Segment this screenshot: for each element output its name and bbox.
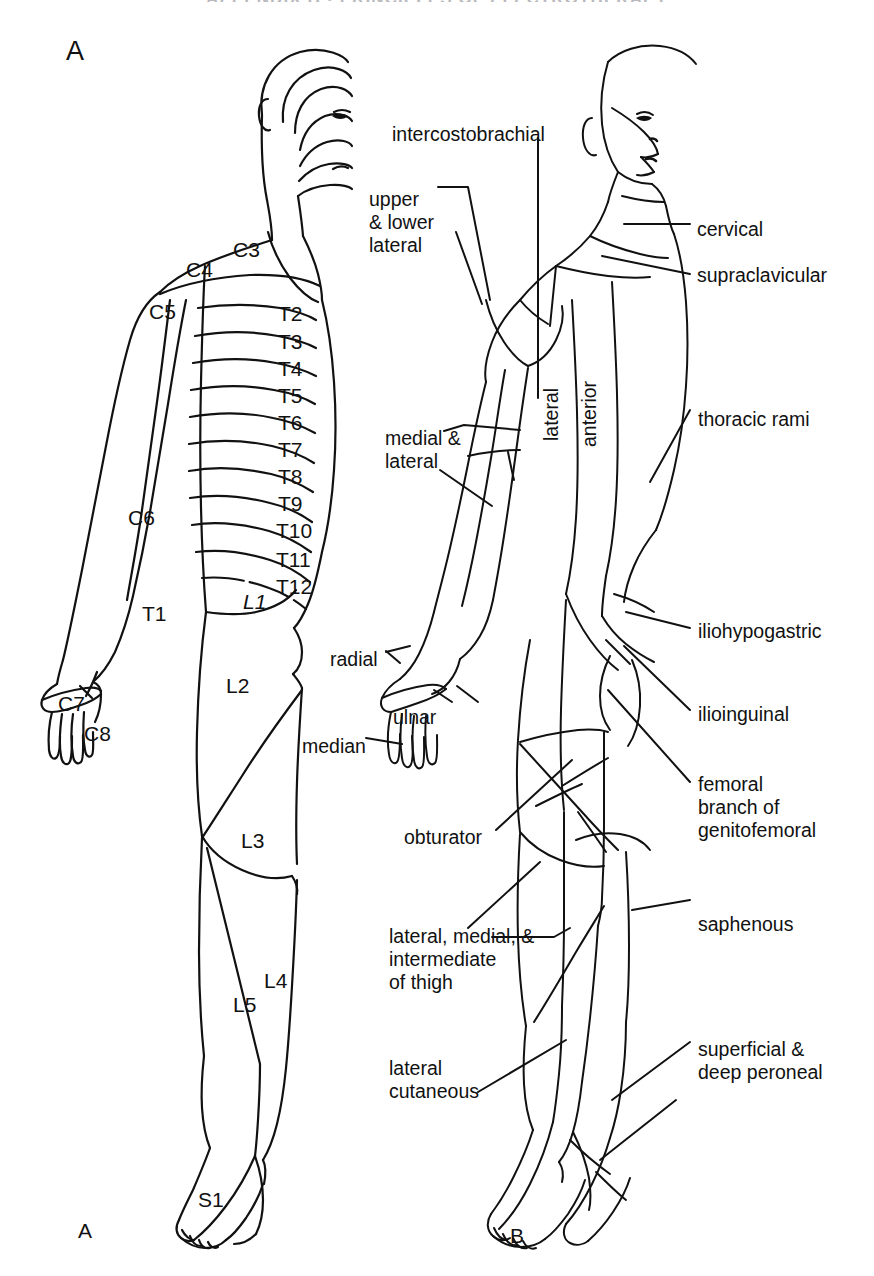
nerve-label-lateral-cutaneous: lateral cutaneous (389, 1057, 479, 1103)
dermatome-label-c4: C4 (186, 258, 213, 281)
nerve-label-medial-lateral: medial & lateral (385, 427, 461, 473)
dermatome-label-t11: T11 (276, 548, 311, 571)
dermatome-label-l1: L1 (243, 590, 266, 613)
dermatome-label-l2: L2 (226, 674, 249, 697)
dermatome-label-t6: T6 (278, 411, 303, 434)
dermatome-label-l4: L4 (264, 969, 287, 992)
dermatome-label-t5: T5 (278, 384, 303, 407)
dermatome-label-t3: T3 (278, 330, 303, 353)
nerve-label-ilioinguinal: ilioinguinal (698, 703, 789, 726)
dermatome-label-t9: T9 (278, 492, 303, 515)
dermatome-label-t10: T10 (276, 519, 312, 542)
nerve-label-median: median (302, 735, 366, 758)
nerve-label-radial: radial (330, 648, 378, 671)
nerve-label-thoracic-rami: thoracic rami (698, 408, 810, 431)
dermatome-label-c6: C6 (128, 506, 155, 529)
dermatome-label-t2: T2 (278, 302, 303, 325)
nerve-label-anterior: anterior (578, 381, 601, 447)
nerve-label-supraclavicular: supraclavicular (697, 264, 827, 287)
nerve-label-obturator: obturator (404, 826, 482, 849)
nerve-label-intercostobrachial: intercostobrachial (392, 123, 545, 146)
dermatome-label-t8: T8 (278, 465, 303, 488)
dermatome-label-c7: C7 (58, 692, 85, 715)
dermatome-label-c3: C3 (233, 238, 260, 261)
dermatome-label-t7: T7 (278, 438, 303, 461)
figure-a-body (41, 50, 352, 1248)
nerve-label-iliohypogastric: iliohypogastric (698, 620, 822, 643)
dermatome-label-l5: L5 (233, 993, 256, 1016)
nerve-label-lateral-medial-intermediate-of-thigh: lateral, medial, & intermediate of thigh (389, 925, 534, 994)
nerve-label-ulnar: ulnar (393, 706, 436, 729)
nerve-label-lateral: lateral (540, 388, 563, 441)
dermatome-label-c5: C5 (149, 300, 176, 323)
dermatome-label-l3: L3 (241, 829, 264, 852)
dermatome-label-t12: T12 (276, 575, 312, 598)
dermatome-label-s1: S1 (198, 1188, 224, 1211)
panel-letter-a-top: A (66, 40, 84, 63)
nerve-label-cervical: cervical (697, 218, 763, 241)
dermatome-figure-page: APPENDIX B • PRINCIPLES OF ELECTROTHERAP… (0, 0, 874, 1276)
dermatome-label-t1: T1 (142, 602, 167, 625)
dermatome-label-c8: C8 (84, 722, 111, 745)
panel-letter-a-bottom: A (78, 1219, 92, 1242)
panel-letter-b-bottom: B (510, 1224, 524, 1247)
nerve-label-superficial-deep-peroneal: superficial & deep peroneal (698, 1038, 823, 1084)
nerve-label-saphenous: saphenous (698, 913, 793, 936)
nerve-label-femoral-branch-of-genitofemoral: femoral branch of genitofemoral (698, 773, 816, 842)
nerve-label-upper-lower-lateral: upper & lower lateral (369, 188, 434, 257)
dermatome-label-t4: T4 (278, 357, 303, 380)
